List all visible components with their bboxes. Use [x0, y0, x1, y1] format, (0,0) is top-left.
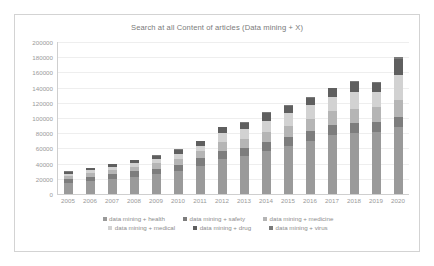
legend-item[interactable]: data mining + virus [269, 224, 328, 231]
legend-item[interactable]: data mining + safety [183, 215, 245, 222]
bar-segment[interactable] [240, 139, 249, 148]
bar-stack[interactable] [152, 155, 161, 194]
legend-item[interactable]: data mining + drug [193, 224, 251, 231]
plot-area [57, 42, 409, 194]
bar-segment[interactable] [196, 166, 205, 194]
bar-segment[interactable] [350, 123, 359, 133]
bar-segment[interactable] [284, 113, 293, 126]
bar-column[interactable] [124, 42, 146, 194]
bar-segment[interactable] [350, 82, 359, 93]
bar-segment[interactable] [262, 113, 271, 121]
bar-stack[interactable] [86, 168, 95, 194]
bar-column[interactable] [58, 42, 80, 194]
bar-column[interactable] [387, 42, 409, 194]
bar-stack[interactable] [350, 81, 359, 194]
bar-column[interactable] [212, 42, 234, 194]
bar-stack[interactable] [284, 105, 293, 194]
bar-segment[interactable] [174, 171, 183, 194]
bar-segment[interactable] [108, 179, 117, 194]
bar-segment[interactable] [218, 151, 227, 159]
bar-stack[interactable] [394, 57, 403, 194]
bar-stack[interactable] [372, 82, 381, 194]
bar-segment[interactable] [262, 142, 271, 151]
bar-stack[interactable] [130, 160, 139, 194]
bar-column[interactable] [277, 42, 299, 194]
bar-series-group [58, 42, 409, 194]
bar-segment[interactable] [130, 177, 139, 194]
bar-stack[interactable] [64, 171, 73, 194]
bar-column[interactable] [234, 42, 256, 194]
bar-column[interactable] [365, 42, 387, 194]
legend-item[interactable]: data mining + medical [108, 224, 175, 231]
legend-item[interactable]: data mining + health [103, 215, 165, 222]
bar-segment[interactable] [328, 135, 337, 194]
bar-segment[interactable] [240, 129, 249, 138]
bar-stack[interactable] [328, 88, 337, 194]
x-axis-tick-labels: 2005200620072008200920102011201220132014… [57, 197, 409, 211]
bar-segment[interactable] [262, 151, 271, 194]
bar-column[interactable] [321, 42, 343, 194]
bar-segment[interactable] [86, 181, 95, 194]
bar-segment[interactable] [240, 156, 249, 194]
bar-segment[interactable] [350, 92, 359, 109]
bar-stack[interactable] [196, 141, 205, 194]
y-axis-tick: 200000 [32, 39, 53, 46]
bar-segment[interactable] [394, 127, 403, 194]
bar-segment[interactable] [328, 125, 337, 135]
bar-column[interactable] [80, 42, 102, 194]
bar-segment[interactable] [394, 59, 403, 76]
bar-segment[interactable] [262, 121, 271, 132]
bar-segment[interactable] [152, 174, 161, 194]
bar-segment[interactable] [372, 132, 381, 194]
bar-segment[interactable] [394, 117, 403, 128]
bar-segment[interactable] [350, 133, 359, 194]
bar-segment[interactable] [394, 100, 403, 117]
bar-segment[interactable] [218, 142, 227, 150]
y-axis-tick-labels: 2000001800001600001400001200001000008000… [17, 42, 55, 194]
bar-column[interactable] [255, 42, 277, 194]
bar-segment[interactable] [328, 111, 337, 125]
bar-segment[interactable] [306, 131, 315, 141]
bar-segment[interactable] [218, 159, 227, 194]
bar-stack[interactable] [262, 112, 271, 194]
bar-segment[interactable] [372, 92, 381, 107]
legend-swatch-icon [263, 217, 267, 221]
bar-segment[interactable] [64, 183, 73, 194]
bar-segment[interactable] [196, 151, 205, 158]
bar-segment[interactable] [218, 133, 227, 142]
bar-segment[interactable] [372, 83, 381, 92]
bar-column[interactable] [299, 42, 321, 194]
bar-segment[interactable] [240, 123, 249, 130]
bar-segment[interactable] [306, 105, 315, 119]
bar-segment[interactable] [284, 137, 293, 147]
x-axis-tick: 2018 [343, 197, 365, 211]
bar-column[interactable] [168, 42, 190, 194]
bar-segment[interactable] [306, 98, 315, 106]
legend-label: data mining + drug [200, 224, 251, 231]
bar-column[interactable] [343, 42, 365, 194]
bar-segment[interactable] [262, 132, 271, 142]
legend-item[interactable]: data mining + medicine [263, 215, 333, 222]
bar-stack[interactable] [240, 122, 249, 194]
bar-segment[interactable] [328, 97, 337, 111]
bar-column[interactable] [102, 42, 124, 194]
bar-segment[interactable] [394, 75, 403, 99]
bar-column[interactable] [190, 42, 212, 194]
bar-segment[interactable] [306, 141, 315, 194]
bar-segment[interactable] [306, 119, 315, 131]
bar-segment[interactable] [196, 158, 205, 166]
bar-segment[interactable] [284, 106, 293, 114]
bar-segment[interactable] [328, 88, 337, 96]
bar-stack[interactable] [218, 127, 227, 194]
bar-stack[interactable] [306, 97, 315, 194]
bar-stack[interactable] [108, 164, 117, 194]
bar-segment[interactable] [372, 107, 381, 121]
bar-column[interactable] [146, 42, 168, 194]
bar-segment[interactable] [350, 109, 359, 123]
bar-segment[interactable] [284, 126, 293, 137]
bar-stack[interactable] [174, 149, 183, 194]
y-axis-tick: 180000 [32, 54, 53, 61]
bar-segment[interactable] [372, 122, 381, 132]
bar-segment[interactable] [240, 148, 249, 156]
bar-segment[interactable] [284, 146, 293, 194]
